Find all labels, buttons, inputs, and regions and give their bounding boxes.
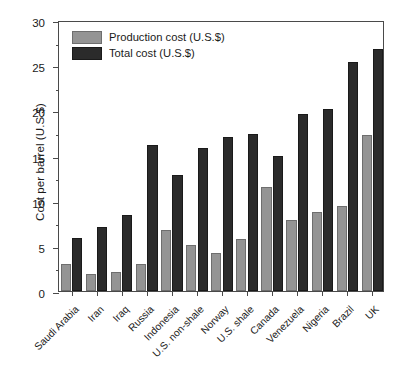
bar-total — [97, 227, 107, 291]
y-tick-major: 20 — [53, 112, 59, 113]
bar-production — [362, 135, 372, 291]
y-tick-major: 0 — [53, 293, 59, 294]
bar-total — [273, 156, 283, 292]
bar-production — [337, 206, 347, 291]
x-tick — [372, 291, 373, 296]
bar-total — [323, 109, 333, 291]
y-tick-minor — [56, 180, 60, 181]
legend-swatch-production — [72, 31, 102, 44]
bar-production — [186, 245, 196, 291]
y-tick-label: 10 — [32, 198, 45, 210]
x-tick — [147, 291, 148, 296]
x-tick — [122, 291, 123, 296]
bar-total — [298, 114, 308, 291]
bar-production — [312, 212, 322, 291]
bar-total — [248, 134, 258, 291]
bar-production — [286, 220, 296, 291]
legend-label: Total cost (U.S.$) — [109, 47, 195, 59]
x-tick — [172, 291, 173, 296]
bar-total — [172, 175, 182, 291]
x-tick — [297, 291, 298, 296]
bar-production — [111, 272, 121, 291]
bar-total — [122, 215, 132, 291]
legend-item: Total cost (U.S.$) — [72, 46, 225, 60]
chart-legend: Production cost (U.S.$)Total cost (U.S.$… — [72, 30, 225, 60]
y-tick-major: 30 — [53, 22, 59, 23]
y-tick-label: 0 — [39, 288, 45, 300]
x-tick — [272, 291, 273, 296]
x-tick — [322, 291, 323, 296]
y-tick-minor — [56, 45, 60, 46]
bar-total — [198, 148, 208, 291]
y-tick-major: 5 — [53, 248, 59, 249]
bar-total — [373, 49, 383, 291]
bar-production — [161, 230, 171, 291]
x-tick — [347, 291, 348, 296]
bar-production — [211, 253, 221, 291]
y-tick-minor — [56, 225, 60, 226]
bar-production — [61, 264, 71, 291]
bar-total — [147, 145, 157, 291]
bar-total — [223, 137, 233, 291]
y-tick-label: 20 — [32, 107, 45, 119]
x-tick — [197, 291, 198, 296]
y-tick-label: 15 — [32, 153, 45, 165]
x-tick — [222, 291, 223, 296]
y-tick-major: 10 — [53, 203, 59, 204]
y-tick-label: 25 — [32, 62, 45, 74]
bar-chart-figure: Cost per barrel (U.S.$) 051015202530 Pro… — [0, 0, 407, 369]
x-tick — [97, 291, 98, 296]
y-tick-minor — [56, 90, 60, 91]
legend-swatch-total — [72, 47, 102, 60]
y-tick-label: 5 — [39, 243, 45, 255]
plot-area: 051015202530 Production cost (U.S.$)Tota… — [58, 21, 384, 292]
y-tick-minor — [56, 135, 60, 136]
bar-total — [348, 62, 358, 291]
legend-label: Production cost (U.S.$) — [109, 31, 225, 43]
x-tick — [247, 291, 248, 296]
x-tick — [72, 291, 73, 296]
y-tick-major: 15 — [53, 158, 59, 159]
bar-production — [236, 239, 246, 291]
y-tick-minor — [56, 270, 60, 271]
bar-production — [86, 274, 96, 291]
y-tick-major: 25 — [53, 67, 59, 68]
y-tick-label: 30 — [32, 17, 45, 29]
bar-production — [261, 187, 271, 291]
legend-item: Production cost (U.S.$) — [72, 30, 225, 44]
bar-total — [72, 238, 82, 291]
bar-production — [136, 264, 146, 291]
